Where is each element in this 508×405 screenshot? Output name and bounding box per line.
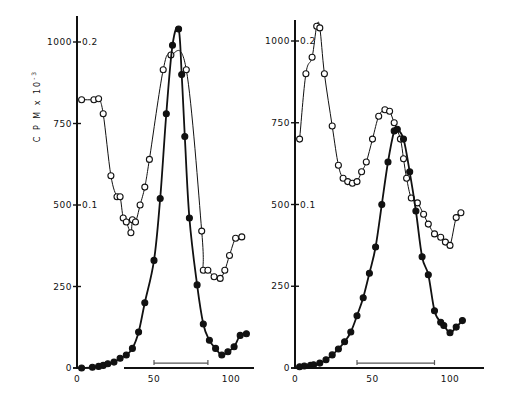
y-axis-title-exponent: -3 [30,70,37,80]
series-line [82,27,247,368]
filled-circle-marker [129,345,135,351]
series-filled-circles [79,26,250,371]
series-filled-circles [297,126,466,369]
filled-circle-marker [366,270,372,276]
x-tick-label: 0 [74,374,80,384]
filled-circle-marker [151,257,157,263]
filled-circle-marker [179,72,185,78]
open-circle-marker [401,156,407,162]
y-tick-label: 0 [66,363,72,373]
open-circle-marker [79,97,85,103]
open-circle-marker [335,162,341,168]
filled-circle-marker [394,126,400,132]
open-circle-marker [317,25,323,31]
y-axis-title-text: C P M x 10 [33,80,42,142]
filled-circle-marker [123,352,129,358]
filled-circle-marker [142,300,148,306]
filled-circle-marker [157,196,163,202]
filled-circle-marker [163,111,169,117]
open-circle-marker [359,169,365,175]
filled-circle-marker [301,363,307,369]
series-line [82,50,242,278]
svg-text:C P M x 10-3: C P M x 10-3 [30,70,42,142]
filled-circle-marker [231,344,237,350]
y-secondary-tick-label: 0.2 [300,36,316,46]
open-circle-marker [453,215,459,221]
filled-circle-marker [182,134,188,140]
y-tick-label: 1000 [47,37,72,47]
open-circle-marker [142,184,148,190]
filled-circle-marker [459,318,465,324]
filled-circle-marker [453,324,459,330]
x-tick-label: 0 [292,374,298,384]
filled-circle-marker [194,282,200,288]
series-line [300,127,463,366]
open-circle-marker [425,221,431,227]
open-circle-marker [96,96,102,102]
open-circle-marker [108,173,114,179]
y-tick-label: 500 [53,200,72,210]
open-circle-marker [458,210,464,216]
open-circle-marker [329,123,335,129]
y-tick-label: 750 [271,118,290,128]
open-circle-marker [146,156,152,162]
x-tick-label: 50 [366,374,378,384]
filled-circle-marker [186,215,192,221]
y-tick-label: 750 [53,119,72,129]
open-circle-marker [239,234,245,240]
open-circle-marker [321,71,327,77]
filled-circle-marker [432,308,438,314]
open-circle-marker [438,234,444,240]
open-circle-marker [137,202,143,208]
y-tick-label: 0 [284,363,290,373]
open-circle-marker [309,54,315,60]
filled-circle-marker [206,337,212,343]
y-tick-label: 250 [53,282,72,292]
filled-circle-marker [136,329,142,335]
filled-circle-marker [360,295,366,301]
filled-circle-marker [342,339,348,345]
filled-circle-marker [243,331,249,337]
filled-circle-marker [401,136,407,142]
open-circle-marker [387,108,393,114]
filled-circle-marker [317,360,323,366]
open-circle-marker [370,136,376,142]
figure: C P M x 10-3 025050075010000.10.2050100 … [0,0,508,405]
open-circle-marker [217,275,223,281]
filled-circle-marker [425,272,431,278]
y-axis-title: C P M x 10-3 [30,70,42,142]
y-tick-label: 1000 [265,36,290,46]
open-circle-marker [183,67,189,73]
right-panel: 025050075010000.10.2050100 [265,20,484,384]
open-circle-marker [123,219,129,225]
y-secondary-tick-label: 0.1 [82,200,98,210]
open-circle-marker [205,267,211,273]
open-circle-marker [297,136,303,142]
open-circle-marker [211,274,217,280]
filled-circle-marker [323,357,329,363]
open-circle-marker [128,230,134,236]
series-open-circles [79,50,245,281]
open-circle-marker [100,111,106,117]
open-circle-marker [404,175,410,181]
open-circle-marker [303,71,309,77]
filled-circle-marker [237,332,243,338]
filled-circle-marker [213,345,219,351]
y-tick-label: 250 [271,281,290,291]
filled-circle-marker [225,349,231,355]
filled-circle-marker [117,355,123,361]
filled-circle-marker [79,365,85,371]
open-circle-marker [222,267,228,273]
filled-circle-marker [407,169,413,175]
filled-circle-marker [373,244,379,250]
filled-circle-marker [348,329,354,335]
filled-circle-marker [385,159,391,165]
open-circle-marker [376,113,382,119]
open-circle-marker [199,228,205,234]
x-tick-label: 50 [148,374,160,384]
y-secondary-tick-label: 0.2 [82,37,98,47]
open-circle-marker [233,235,239,241]
open-circle-marker [117,194,123,200]
x-tick-label: 100 [222,374,241,384]
open-circle-marker [391,120,397,126]
